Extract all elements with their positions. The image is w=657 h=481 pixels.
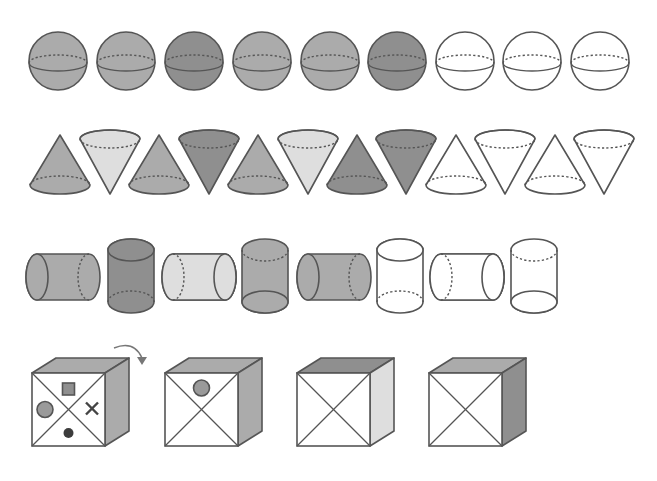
sphere [571,32,629,90]
cone-row [30,130,634,194]
dot-mark-icon [64,428,74,438]
cylinder-horizontal [26,254,100,300]
cube [429,358,526,446]
circle-mark-icon [37,402,53,418]
cylinder-vertical [511,239,557,313]
sphere [165,32,223,90]
cone-upright [30,135,90,194]
sphere [368,32,426,90]
cube-side-face [105,358,129,446]
cylinder-vertical [377,239,423,313]
cube-side-face [370,358,394,446]
cylinder-vertical [242,239,288,313]
cylinder-row [26,239,557,313]
sphere [29,32,87,90]
figure-canvas [0,0,657,481]
sphere [503,32,561,90]
cylinder-vertical [108,239,154,313]
cube-row [32,346,526,446]
sphere [301,32,359,90]
cube [165,358,262,446]
square-mark-icon [63,383,75,395]
sphere [233,32,291,90]
sphere [436,32,494,90]
cube-side-face [238,358,262,446]
cube [297,358,394,446]
sphere-row [29,32,629,90]
cylinder-horizontal [430,254,504,300]
cylinder-horizontal [297,254,371,300]
cube-side-face [502,358,526,446]
cylinder-horizontal [162,254,236,300]
circle-mark-icon [194,380,210,396]
sphere [97,32,155,90]
cube [32,346,147,446]
